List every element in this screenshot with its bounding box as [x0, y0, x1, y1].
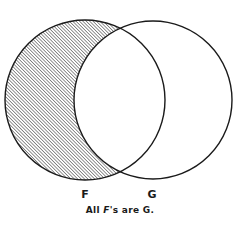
- caption: All F's are G.: [86, 205, 154, 215]
- shaded-region-f-not-g: [5, 20, 165, 180]
- caption-prefix: All: [86, 205, 103, 215]
- venn-diagram: [0, 0, 239, 230]
- caption-suffix: 's are G.: [110, 205, 155, 215]
- set-label-f: F: [81, 188, 89, 201]
- set-label-g: G: [147, 188, 156, 201]
